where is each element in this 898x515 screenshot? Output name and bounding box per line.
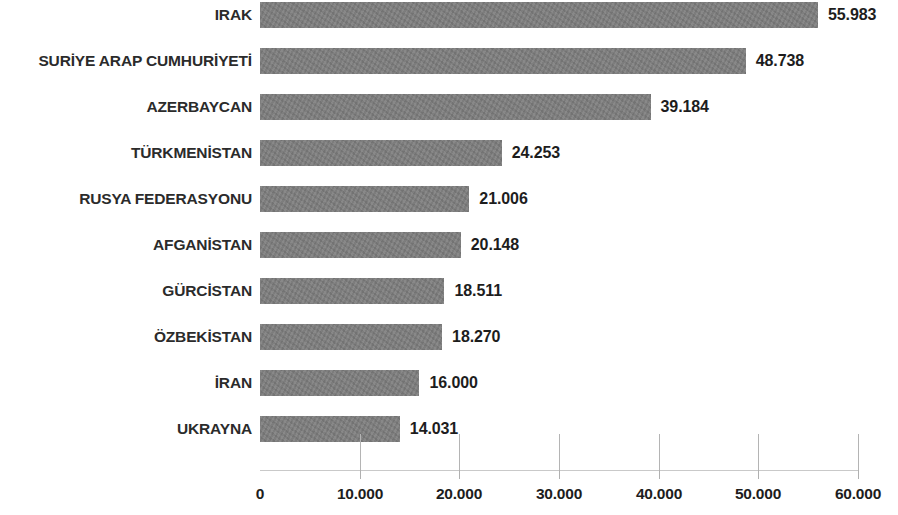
- bar-texture: [260, 140, 502, 166]
- x-axis-tick-stub: [659, 470, 660, 479]
- x-axis-tick-label: 0: [256, 484, 264, 504]
- category-label: İRAN: [215, 370, 252, 396]
- bar-value-label: 14.031: [410, 416, 458, 442]
- bar-value-label: 16.000: [429, 370, 477, 396]
- bar: [260, 324, 442, 350]
- bar-row: ÖZBEKİSTAN18.270: [0, 324, 898, 350]
- x-axis-tick-stub: [858, 470, 859, 479]
- x-axis-tick-label: 40.000: [636, 484, 682, 504]
- x-axis-tick: [858, 434, 859, 470]
- bar-texture: [260, 232, 461, 258]
- bar: [260, 232, 461, 258]
- x-axis-tick-label: 60.000: [835, 484, 881, 504]
- bar-row: GÜRCİSTAN18.511: [0, 278, 898, 304]
- bar-row: İRAN16.000: [0, 370, 898, 396]
- bar-value-label: 21.006: [479, 186, 527, 212]
- x-axis-tick-label: 20.000: [436, 484, 482, 504]
- bar-row: AFGANİSTAN20.148: [0, 232, 898, 258]
- x-axis-tick-stub: [459, 470, 460, 479]
- bar-texture: [260, 324, 442, 350]
- x-axis-tick-stub: [559, 470, 560, 479]
- bar: [260, 140, 502, 166]
- bar-value-label: 18.511: [454, 278, 501, 304]
- category-label: SURİYE ARAP CUMHURİYETİ: [38, 48, 252, 74]
- x-axis-tick-label: 10.000: [337, 484, 383, 504]
- bar-texture: [260, 94, 651, 120]
- x-axis-tick-stub: [758, 470, 759, 479]
- category-label: IRAK: [215, 2, 252, 28]
- bar-row: IRAK55.983: [0, 2, 898, 28]
- category-label: ÖZBEKİSTAN: [154, 324, 252, 350]
- category-label: AFGANİSTAN: [153, 232, 252, 258]
- category-label: RUSYA FEDERASYONU: [79, 186, 252, 212]
- bar-value-label: 48.738: [756, 48, 804, 74]
- bar: [260, 278, 444, 304]
- x-axis-tick-label: 50.000: [735, 484, 781, 504]
- bar: [260, 186, 469, 212]
- bar-row: AZERBAYCAN39.184: [0, 94, 898, 120]
- category-label: TÜRKMENİSTAN: [131, 140, 252, 166]
- category-label: GÜRCİSTAN: [162, 278, 252, 304]
- bar-value-label: 24.253: [512, 140, 560, 166]
- x-axis-tick: [360, 434, 361, 470]
- x-axis-tick: [659, 434, 660, 470]
- bar-row: RUSYA FEDERASYONU21.006: [0, 186, 898, 212]
- bar-row: TÜRKMENİSTAN24.253: [0, 140, 898, 166]
- bar: [260, 94, 651, 120]
- bar-value-label: 39.184: [661, 94, 709, 120]
- bar-texture: [260, 2, 818, 28]
- bar-texture: [260, 48, 746, 74]
- x-axis-tick: [459, 434, 460, 470]
- bar: [260, 48, 746, 74]
- bar-texture: [260, 370, 419, 396]
- plot-area: IRAK55.983SURİYE ARAP CUMHURİYETİ48.738A…: [0, 0, 898, 515]
- category-label: UKRAYNA: [177, 416, 252, 442]
- bar-texture: [260, 278, 444, 304]
- bar-value-label: 20.148: [471, 232, 519, 258]
- bar-texture: [260, 186, 469, 212]
- bar-row: SURİYE ARAP CUMHURİYETİ48.738: [0, 48, 898, 74]
- bar-chart: IRAK55.983SURİYE ARAP CUMHURİYETİ48.738A…: [0, 0, 898, 515]
- bar: [260, 370, 419, 396]
- category-label: AZERBAYCAN: [146, 94, 252, 120]
- bar-value-label: 18.270: [452, 324, 500, 350]
- bar-value-label: 55.983: [828, 2, 876, 28]
- bar: [260, 416, 400, 442]
- x-axis-tick: [758, 434, 759, 470]
- x-axis-tick-label: 30.000: [536, 484, 582, 504]
- x-axis-tick-stub: [360, 470, 361, 479]
- bar-texture: [260, 416, 400, 442]
- x-axis-tick: [559, 434, 560, 470]
- bar: [260, 2, 818, 28]
- bar-row: UKRAYNA14.031: [0, 416, 898, 442]
